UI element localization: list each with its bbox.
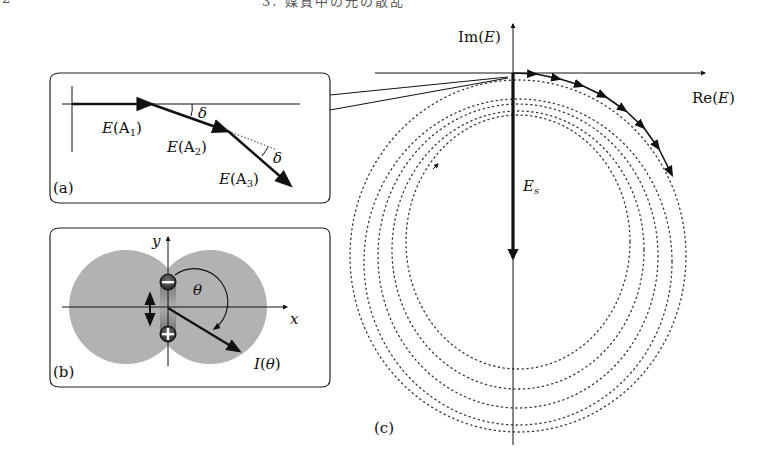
panel-b: y x θ II((θ) (b) xyxy=(50,228,330,387)
dotted-circles xyxy=(350,80,686,432)
scattered-field-label: Es xyxy=(522,177,539,196)
theta-label: θ xyxy=(193,281,202,299)
real-axis-label: Re(E) xyxy=(692,89,735,107)
rotation-arrow-icon xyxy=(433,164,438,169)
label-e-a1: EE(A(A1) xyxy=(101,119,142,138)
callout-lines xyxy=(330,77,508,110)
panel-a-label: (a) xyxy=(53,179,74,197)
x-axis-label: x xyxy=(290,310,299,328)
y-axis-label: y xyxy=(151,232,161,250)
dotted-circle xyxy=(378,104,658,408)
panel-b-label: (b) xyxy=(53,363,74,381)
positive-charge xyxy=(160,326,176,342)
dotted-circle xyxy=(350,80,686,432)
dotted-circle xyxy=(392,111,644,389)
dotted-circle xyxy=(364,99,672,425)
label-e-a3: E(A3) xyxy=(218,170,259,189)
imag-axis-label: Im(E) xyxy=(458,28,501,46)
panel-a: δ δ EE(A(A1) E(A2) E(A3) (a) xyxy=(50,73,330,203)
negative-charge xyxy=(160,274,176,290)
intensity-label: II((θ) xyxy=(253,355,281,373)
figure: Im(E) Re(E) Es (c) δ δ EE(A(A1) E(A2) E(… xyxy=(0,0,762,469)
vector-chain xyxy=(513,73,672,175)
dotted-circle xyxy=(406,115,630,369)
delta-label-2: δ xyxy=(273,149,282,167)
panel-c-label: (c) xyxy=(374,419,394,437)
label-e-a2: E(A2) xyxy=(166,138,207,157)
delta-label-1: δ xyxy=(198,104,207,122)
